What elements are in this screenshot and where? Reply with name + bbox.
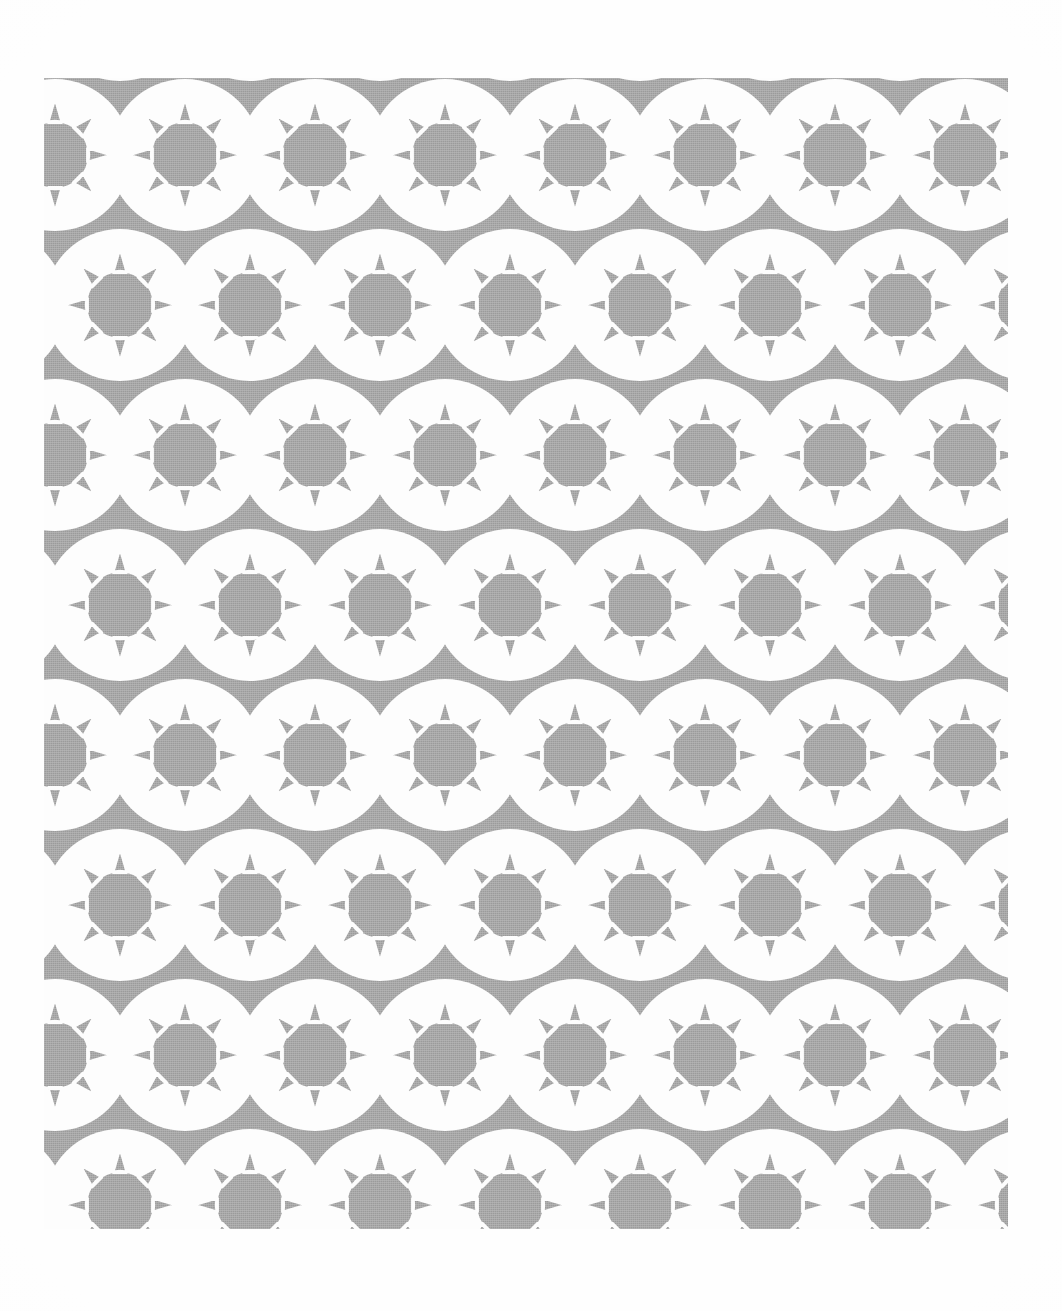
rosette-sun-shape	[584, 849, 696, 961]
rosette-sun-shape	[519, 399, 631, 511]
rosette-motif	[194, 849, 306, 961]
rosette-sun-shape	[454, 849, 566, 961]
rosette-sun-shape	[649, 699, 761, 811]
rosette-motif	[194, 549, 306, 661]
rosette-sun-shape	[519, 99, 631, 211]
rosette-sun-shape	[259, 399, 371, 511]
rosette-motif	[259, 999, 371, 1111]
rosette-sun-shape	[259, 699, 371, 811]
rosette-motif	[389, 699, 501, 811]
rosette-motif	[649, 699, 761, 811]
rosette-motif	[454, 549, 566, 661]
rosette-motif	[389, 399, 501, 511]
rosette-motif	[519, 399, 631, 511]
rosette-sun-shape	[259, 99, 371, 211]
rosette-sun-shape	[389, 99, 501, 211]
rosette-motif	[519, 999, 631, 1111]
rosette-motif	[779, 399, 891, 511]
rosette-sun-shape	[649, 399, 761, 511]
rosette-motif	[779, 999, 891, 1111]
rosette-motif	[519, 99, 631, 211]
rosette-sun-shape	[129, 399, 241, 511]
rosette-motif	[324, 249, 436, 361]
rosette-motif	[844, 249, 956, 361]
rosette-sun-shape	[259, 999, 371, 1111]
rosette-sun-shape	[844, 849, 956, 961]
rosette-sun-shape	[194, 249, 306, 361]
rosette-motif	[779, 699, 891, 811]
rosette-sun-shape	[844, 549, 956, 661]
rosette-motif	[454, 849, 566, 961]
rosette-motif	[779, 99, 891, 211]
scanned-page: Repeating rosette / sunburst pattern pri…	[0, 0, 1062, 1311]
rosette-sun-shape	[64, 249, 176, 361]
rosette-motif	[129, 99, 241, 211]
rosette-sun-shape	[779, 699, 891, 811]
rosette-motif	[584, 849, 696, 961]
rosette-motif	[584, 249, 696, 361]
rosette-sun-shape	[129, 999, 241, 1111]
rosette-motif	[129, 999, 241, 1111]
rosette-motif	[649, 99, 761, 211]
rosette-motif	[129, 699, 241, 811]
rosette-sun-shape	[324, 249, 436, 361]
rosette-sun-shape	[779, 999, 891, 1111]
rosette-sun-shape	[714, 549, 826, 661]
rosette-motif	[324, 549, 436, 661]
rosette-motif	[519, 699, 631, 811]
rosette-sun-shape	[649, 99, 761, 211]
rosette-sun-shape	[519, 699, 631, 811]
rosette-motif	[259, 699, 371, 811]
rosette-motif	[454, 249, 566, 361]
rosette-sun-shape	[584, 249, 696, 361]
rosette-sun-shape	[779, 399, 891, 511]
rosette-motif	[389, 99, 501, 211]
rosette-sun-shape	[389, 699, 501, 811]
rosette-sun-shape	[64, 549, 176, 661]
rosette-sun-shape	[194, 549, 306, 661]
rosette-motif	[129, 399, 241, 511]
rosette-motif	[844, 549, 956, 661]
rosette-sun-shape	[779, 99, 891, 211]
rosette-sun-shape	[714, 849, 826, 961]
rosette-sun-shape	[129, 699, 241, 811]
rosette-sun-shape	[324, 849, 436, 961]
rosette-sun-shape	[194, 849, 306, 961]
rosette-motif	[259, 99, 371, 211]
rosette-sun-shape	[714, 249, 826, 361]
pattern-svg	[44, 78, 1008, 1229]
rosette-motif	[259, 399, 371, 511]
rosette-motif	[714, 249, 826, 361]
rosette-motif	[64, 849, 176, 961]
rosette-motif	[844, 849, 956, 961]
rosette-motif	[649, 399, 761, 511]
rosette-motif	[194, 249, 306, 361]
rosette-sun-shape	[389, 999, 501, 1111]
rosette-motif	[714, 549, 826, 661]
rosette-sun-shape	[519, 999, 631, 1111]
rosette-motif	[649, 999, 761, 1111]
rosette-sun-shape	[844, 249, 956, 361]
rosette-sun-shape	[454, 549, 566, 661]
pattern-region	[44, 78, 1008, 1229]
rosette-sun-shape	[324, 549, 436, 661]
rosette-sun-shape	[454, 249, 566, 361]
rosette-motif	[64, 549, 176, 661]
rosette-motif	[584, 549, 696, 661]
rosette-motif	[389, 999, 501, 1111]
rosette-sun-shape	[64, 849, 176, 961]
rosette-sun-shape	[389, 399, 501, 511]
rosette-motif	[64, 249, 176, 361]
rosette-motif	[714, 849, 826, 961]
rosette-sun-shape	[584, 549, 696, 661]
rosette-sun-shape	[129, 99, 241, 211]
rosette-motif	[324, 849, 436, 961]
rosette-sun-shape	[649, 999, 761, 1111]
